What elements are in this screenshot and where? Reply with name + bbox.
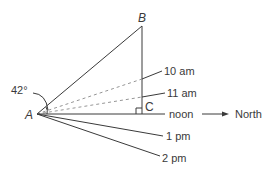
dashed-line-11am [37, 97, 142, 114]
label-noon: noon [169, 108, 193, 120]
vertex-b-label: B [138, 11, 146, 25]
label-10am: 10 am [164, 65, 195, 77]
north-label: North [235, 108, 262, 120]
north-arrow-head-icon [222, 112, 229, 117]
dashed-line-10am [37, 79, 142, 114]
leader-11am [142, 93, 165, 97]
vertex-a-label: A [24, 108, 33, 122]
label-1pm: 1 pm [166, 130, 190, 142]
segment-ab [37, 26, 142, 114]
line-2pm [37, 114, 160, 156]
vertex-c-label: C [145, 100, 154, 114]
label-2pm: 2 pm [162, 152, 186, 164]
angle-arc-a [46, 107, 47, 114]
angle-label: 42° [11, 84, 28, 96]
leader-10am [142, 71, 162, 79]
right-angle-marker [136, 108, 142, 114]
sun-shadow-diagram: A B C 42° 10 am 11 am noon 1 pm 2 pm Nor… [0, 0, 277, 184]
line-1pm [37, 114, 163, 136]
label-11am: 11 am [167, 87, 197, 99]
